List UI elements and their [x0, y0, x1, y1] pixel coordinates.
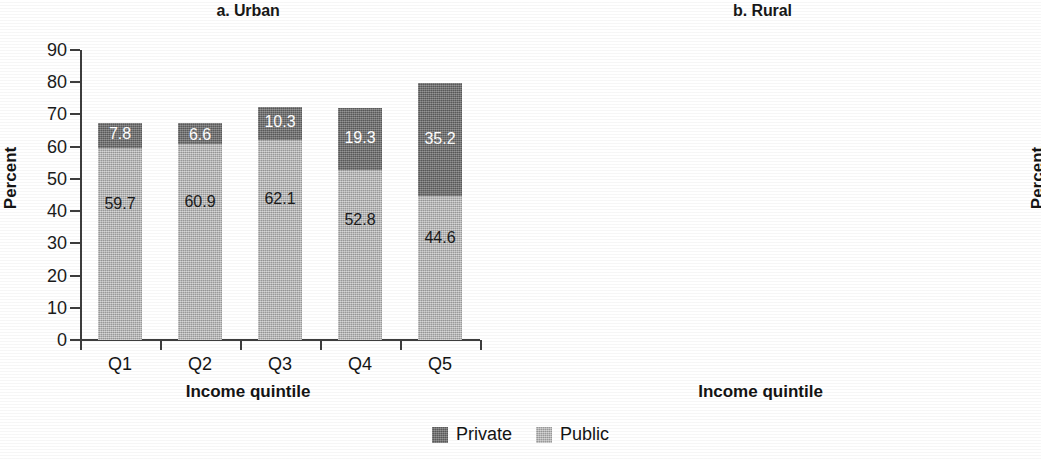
- panel-rural-x-axis-label: Income quintile: [500, 382, 1021, 402]
- urban-bar-q3[interactable]: [258, 107, 302, 340]
- urban-x-tick: [80, 340, 82, 350]
- urban-x-tick-label-q2: Q2: [170, 354, 230, 375]
- urban-y-tick-label: 80: [47, 72, 74, 93]
- urban-x-tick: [240, 340, 242, 350]
- urban-label-q3-public: 62.1: [258, 190, 302, 208]
- urban-y-tick-label: 20: [47, 265, 74, 286]
- urban-y-tick-label: 60: [47, 136, 74, 157]
- urban-x-tick: [160, 340, 162, 350]
- urban-label-q2-public: 60.9: [178, 193, 222, 211]
- urban-bar-q1-public-segment[interactable]: [98, 148, 142, 340]
- legend-item-private[interactable]: Private: [432, 424, 512, 445]
- urban-label-q5-private: 35.2: [418, 130, 462, 148]
- chart-legend: PrivatePublic: [0, 424, 1041, 445]
- panel-urban-y-axis-label: Percent: [1, 133, 21, 223]
- urban-x-tick-label-q3: Q3: [250, 354, 310, 375]
- urban-y-tick-label: 50: [47, 168, 74, 189]
- urban-label-q1-public: 59.7: [98, 195, 142, 213]
- panel-urban: a. Urban Percent 7.859.76.660.910.362.11…: [0, 0, 520, 415]
- urban-bar-q2-public-segment[interactable]: [178, 144, 222, 340]
- urban-x-tick-label-q5: Q5: [410, 354, 470, 375]
- urban-x-tick: [480, 340, 482, 350]
- urban-label-q3-private: 10.3: [258, 113, 302, 131]
- urban-bar-q2[interactable]: [178, 123, 222, 341]
- urban-x-tick: [320, 340, 322, 350]
- urban-y-tick-label: 40: [47, 201, 74, 222]
- urban-bar-q4-public-segment[interactable]: [338, 170, 382, 340]
- urban-label-q4-private: 19.3: [338, 129, 382, 147]
- urban-bar-q1[interactable]: [98, 123, 142, 341]
- urban-x-tick-label-q4: Q4: [330, 354, 390, 375]
- urban-bar-q5[interactable]: [418, 83, 462, 340]
- figure-root: a. Urban Percent 7.859.76.660.910.362.11…: [0, 0, 1041, 459]
- urban-x-tick: [400, 340, 402, 350]
- public-swatch: [536, 427, 552, 443]
- panel-rural-y-axis-label: Percent: [1028, 133, 1041, 223]
- legend-item-public[interactable]: Public: [536, 424, 609, 445]
- panel-rural-title: b. Rural: [502, 2, 1023, 20]
- panel-urban-bars: 7.859.76.660.910.362.119.352.835.244.6: [80, 50, 480, 340]
- legend-label-private: Private: [456, 424, 512, 445]
- private-swatch: [432, 427, 448, 443]
- urban-label-q1-private: 7.8: [98, 125, 142, 143]
- urban-y-tick-label: 10: [47, 297, 74, 318]
- urban-label-q4-public: 52.8: [338, 211, 382, 229]
- urban-x-tick-label-q1: Q1: [90, 354, 150, 375]
- urban-bar-q3-public-segment[interactable]: [258, 140, 302, 340]
- panel-urban-title: a. Urban: [0, 2, 508, 20]
- panel-container: a. Urban Percent 7.859.76.660.910.362.11…: [0, 0, 1041, 415]
- panel-urban-plot-area: 7.859.76.660.910.362.119.352.835.244.6 0…: [80, 50, 480, 340]
- urban-y-tick-label: 90: [47, 40, 74, 61]
- panel-rural: b. Rural Percent 0.620.00.827.33.528.96.…: [520, 0, 1041, 415]
- legend-label-public: Public: [560, 424, 609, 445]
- panel-urban-x-axis-label: Income quintile: [0, 382, 508, 402]
- urban-label-q2-private: 6.6: [178, 126, 222, 144]
- urban-y-tick-label: 30: [47, 233, 74, 254]
- urban-bar-q5-public-segment[interactable]: [418, 196, 462, 340]
- urban-y-tick-label: 70: [47, 104, 74, 125]
- urban-label-q5-public: 44.6: [418, 229, 462, 247]
- urban-y-tick-label: 0: [57, 330, 74, 351]
